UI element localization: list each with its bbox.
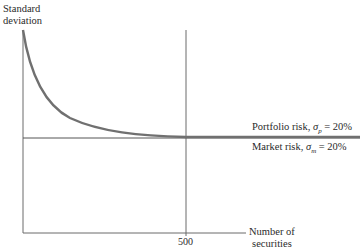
y-axis-label-line2: deviation bbox=[3, 15, 42, 27]
market-risk-value: = 20% bbox=[316, 141, 346, 152]
x-axis-label: Number of securities bbox=[249, 226, 295, 250]
x-tick-label-500: 500 bbox=[178, 236, 193, 248]
y-axis-label: Standard deviation bbox=[3, 3, 42, 27]
market-risk-annotation: Market risk, σm = 20% bbox=[252, 141, 347, 157]
portfolio-risk-prefix: Portfolio risk, bbox=[252, 121, 313, 132]
y-axis-label-line1: Standard bbox=[3, 3, 42, 15]
portfolio-risk-value: = 20% bbox=[322, 121, 352, 132]
portfolio-risk-annotation: Portfolio risk, σp = 20% bbox=[252, 121, 352, 137]
x-axis-label-line1: Number of bbox=[249, 226, 295, 238]
x-axis-label-line2: securities bbox=[249, 238, 295, 250]
market-risk-prefix: Market risk, bbox=[252, 141, 306, 152]
